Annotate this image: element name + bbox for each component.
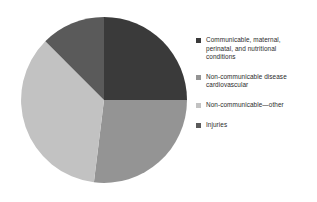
legend-swatch-icon [196,123,201,128]
chart-legend: Communicable, maternal, perinatal, and n… [196,36,314,140]
pie-plot-area [19,15,189,185]
legend-swatch-icon [196,75,201,80]
pie-slice-communicable-maternal-perinatal-nutritional[interactable] [104,17,187,100]
legend-label: Non-communicable disease cardiovascular [206,73,287,90]
legend-item-non-communicable-other[interactable]: Non-communicable—other [196,101,314,110]
pie-slice-non-communicable-cardiovascular[interactable] [94,100,187,183]
legend-item-communicable[interactable]: Communicable, maternal, perinatal, and n… [196,36,314,62]
legend-label: Non-communicable—other [206,101,284,110]
pie-chart-figure: Communicable, maternal, perinatal, and n… [0,0,317,202]
legend-item-non-communicable-cardiovascular[interactable]: Non-communicable disease cardiovascular [196,73,314,90]
legend-label: Communicable, maternal, perinatal, and n… [206,36,281,62]
legend-swatch-icon [196,103,201,108]
pie-svg [19,15,189,185]
legend-label: Injuries [206,121,227,130]
legend-swatch-icon [196,38,201,43]
legend-item-injuries[interactable]: Injuries [196,121,314,130]
